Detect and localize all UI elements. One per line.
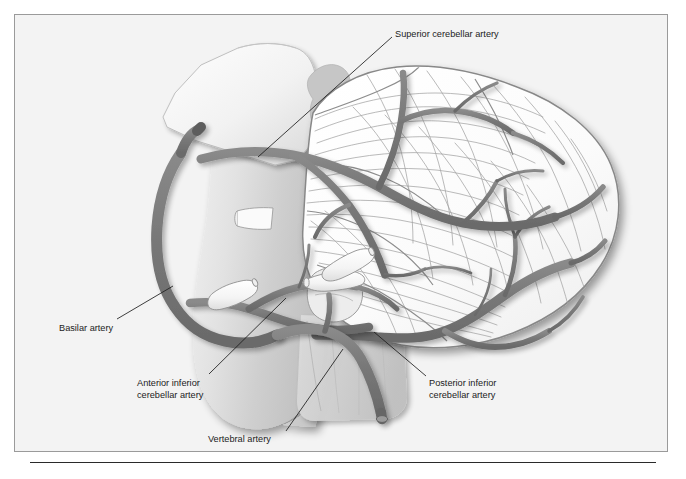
leader-basilar-artery xyxy=(117,286,173,319)
label-superior-cerebellar-artery: Superior cerebellar artery xyxy=(395,29,499,39)
label-posterior-inferior-cerebellar-artery-line1: Posterior inferior xyxy=(429,378,496,388)
cut-tube-structure xyxy=(235,208,273,230)
label-anterior-inferior-cerebellar-artery-line2: cerebellar artery xyxy=(137,390,204,400)
figure-frame: Superior cerebellar artery Basilar arter… xyxy=(14,14,668,452)
label-vertebral-artery: Vertebral artery xyxy=(208,434,271,444)
figure-root: Superior cerebellar artery Basilar arter… xyxy=(0,0,686,479)
caption-rule xyxy=(30,462,656,463)
label-posterior-inferior-cerebellar-artery-line2: cerebellar artery xyxy=(429,390,496,400)
label-anterior-inferior-cerebellar-artery-line1: Anterior inferior xyxy=(137,378,200,388)
label-basilar-artery: Basilar artery xyxy=(59,323,114,333)
anatomy-illustration: Superior cerebellar artery Basilar arter… xyxy=(15,15,667,451)
